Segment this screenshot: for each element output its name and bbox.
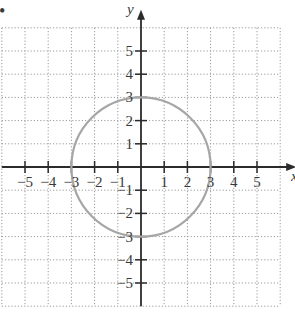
y-tick-label: 3 bbox=[126, 89, 134, 105]
x-axis-label: x bbox=[290, 168, 295, 184]
y-tick-label: −5 bbox=[117, 275, 133, 291]
x-tick-label: −5 bbox=[17, 174, 33, 190]
x-tick-label: 5 bbox=[253, 174, 261, 190]
y-axis-label: y bbox=[125, 1, 134, 17]
bullet-marker: • bbox=[0, 1, 5, 21]
y-tick-label: −1 bbox=[117, 182, 133, 198]
y-tick-label: 5 bbox=[126, 43, 134, 59]
x-tick-label: 4 bbox=[230, 174, 238, 190]
x-tick-label: 2 bbox=[184, 174, 192, 190]
coordinate-plane: −5−4−3−2−112345−5−4−3−2−112345 • y x bbox=[0, 0, 295, 328]
y-tick-label: 1 bbox=[126, 136, 134, 152]
y-axis-arrow-icon bbox=[137, 10, 145, 20]
y-tick-label: −2 bbox=[117, 205, 133, 221]
axes bbox=[2, 10, 295, 306]
x-tick-label: −4 bbox=[40, 174, 56, 190]
y-tick-label: −4 bbox=[117, 252, 133, 268]
x-tick-label: 3 bbox=[207, 174, 215, 190]
y-tick-label: −3 bbox=[117, 229, 133, 245]
x-tick-label: 1 bbox=[160, 174, 168, 190]
x-tick-label: −2 bbox=[87, 174, 103, 190]
x-tick-label: −3 bbox=[63, 174, 79, 190]
y-tick-label: 2 bbox=[126, 113, 134, 129]
y-tick-label: 4 bbox=[126, 66, 134, 82]
